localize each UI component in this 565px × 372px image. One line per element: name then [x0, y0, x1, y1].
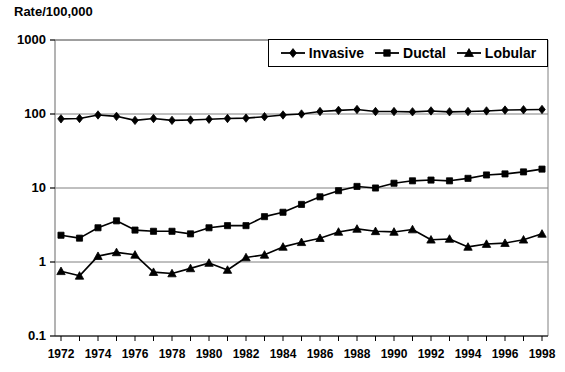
data-point: [132, 116, 139, 124]
y-tick-label: 10: [0, 180, 46, 195]
data-point: [280, 209, 286, 215]
legend-item-invasive[interactable]: Invasive: [280, 45, 364, 61]
data-point: [58, 232, 64, 238]
data-point: [520, 169, 526, 175]
y-tick-label: 0.1: [0, 328, 46, 343]
x-tick-label: 1990: [374, 347, 414, 361]
data-point: [502, 171, 508, 177]
data-point: [206, 115, 213, 123]
legend-item-label: Invasive: [309, 45, 364, 61]
data-point: [57, 267, 65, 275]
data-point: [446, 178, 452, 184]
x-tick-label: 1992: [411, 347, 451, 361]
diamond-marker-icon: [280, 46, 306, 60]
data-point: [224, 114, 231, 122]
data-point: [409, 108, 416, 116]
x-tick-label: 1994: [448, 347, 488, 361]
x-tick-label: 1984: [263, 347, 303, 361]
legend-item-label: Ductal: [403, 45, 446, 61]
data-point: [224, 223, 230, 229]
data-point: [187, 116, 194, 124]
x-tick-label: 1976: [115, 347, 155, 361]
data-point: [113, 112, 120, 120]
data-point: [150, 228, 156, 234]
legend-item-label: Lobular: [485, 45, 536, 61]
data-point: [112, 248, 120, 256]
data-point: [298, 110, 305, 118]
data-point: [206, 225, 212, 231]
series-lobular: [57, 225, 546, 279]
data-point: [132, 227, 138, 233]
data-point: [76, 235, 82, 241]
x-tick-label: 1978: [152, 347, 192, 361]
data-point: [243, 114, 250, 122]
data-point: [76, 114, 83, 122]
triangle-marker-icon: [456, 46, 482, 60]
data-point: [150, 114, 157, 122]
data-point: [502, 106, 509, 114]
data-point: [58, 115, 65, 123]
data-point: [187, 231, 193, 237]
data-point: [261, 214, 267, 220]
data-point: [205, 259, 213, 267]
data-point: [539, 105, 546, 113]
series-ductal: [58, 166, 545, 241]
data-point: [354, 183, 360, 189]
data-point: [409, 178, 415, 184]
data-point: [298, 201, 304, 207]
data-point: [280, 111, 287, 119]
x-tick-label: 1986: [300, 347, 340, 361]
data-point: [520, 106, 527, 114]
data-point: [95, 111, 102, 119]
data-point: [465, 175, 471, 181]
legend-item-ductal[interactable]: Ductal: [374, 45, 446, 61]
series-line: [61, 229, 542, 276]
x-tick-label: 1998: [522, 347, 562, 361]
data-point: [391, 180, 397, 186]
square-marker-icon: [374, 46, 400, 60]
y-tick-label: 1: [0, 254, 46, 269]
chart-legend: InvasiveDuctalLobular: [268, 39, 548, 67]
x-tick-label: 1980: [189, 347, 229, 361]
data-point: [243, 223, 249, 229]
data-point: [335, 188, 341, 194]
y-tick-label: 1000: [0, 32, 46, 47]
data-point: [354, 105, 361, 113]
chart-container: Rate/100,000 10001001010.1 1972197419761…: [0, 0, 565, 372]
x-tick-label: 1988: [337, 347, 377, 361]
data-point: [539, 166, 545, 172]
data-point: [372, 185, 378, 191]
data-point: [169, 228, 175, 234]
data-point: [95, 225, 101, 231]
x-tick-label: 1974: [78, 347, 118, 361]
x-tick-label: 1996: [485, 347, 525, 361]
y-tick-label: 100: [0, 106, 46, 121]
legend-item-lobular[interactable]: Lobular: [456, 45, 536, 61]
series-invasive: [58, 105, 546, 124]
data-point: [446, 108, 453, 116]
data-point: [335, 106, 342, 114]
data-point: [317, 194, 323, 200]
y-axis-ticks: [50, 40, 55, 336]
data-point: [169, 116, 176, 124]
x-tick-label: 1972: [41, 347, 81, 361]
data-point: [538, 230, 546, 238]
data-point: [428, 177, 434, 183]
x-axis-ticks: [61, 336, 542, 341]
grid-lines: [55, 40, 548, 336]
data-point: [483, 172, 489, 178]
x-tick-label: 1982: [226, 347, 266, 361]
data-point: [113, 218, 119, 224]
